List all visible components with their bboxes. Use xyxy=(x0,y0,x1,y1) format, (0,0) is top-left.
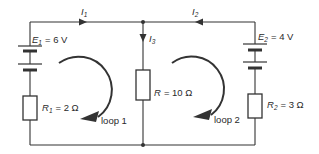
junction-top xyxy=(141,20,145,24)
resistor-r-icon xyxy=(136,70,150,100)
resistor-r1-label: R1= 2 Ω xyxy=(42,102,79,114)
resistor-r2-label: R2= 3 Ω xyxy=(267,99,304,111)
battery-e1-icon xyxy=(18,46,42,70)
current-arrow-i2-icon xyxy=(195,19,203,26)
battery-e2-icon xyxy=(243,44,267,68)
junction-bottom xyxy=(141,143,145,147)
resistor-r1-icon xyxy=(23,96,37,120)
loop1-label: loop 1 xyxy=(101,115,127,126)
current-label-i2: I2 xyxy=(192,6,199,18)
current-label-i3: I3 xyxy=(149,33,156,45)
current-arrow-i3-icon xyxy=(140,34,147,42)
current-arrow-i1-icon xyxy=(79,19,87,26)
loop2-label: loop 2 xyxy=(214,114,240,125)
battery-e2-label: E2= 4 V xyxy=(258,31,294,43)
resistor-r-label: R= 10 Ω xyxy=(154,87,192,98)
current-label-i1: I1 xyxy=(81,6,88,18)
resistor-r2-icon xyxy=(248,94,262,118)
circuit-diagram: I1 I2 I3 E1= 6 V E2= 4 V R1= 2 Ω R= 10 Ω… xyxy=(0,0,319,154)
battery-e1-label: E1= 6 V xyxy=(32,34,68,46)
